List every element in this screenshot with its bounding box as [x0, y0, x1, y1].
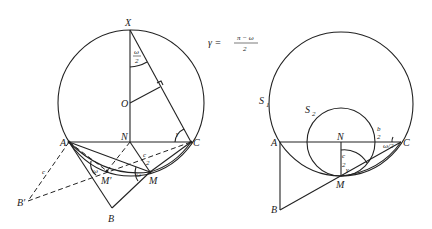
label-N: N: [120, 131, 129, 142]
label-omega-left: ω: [93, 167, 98, 175]
left-figure: X ω 2 O N A C γ c 2 ω ω M′ M c B′ B: [17, 17, 204, 224]
line-NM: [130, 142, 150, 172]
dashed-NM-prime: [107, 142, 130, 171]
label-c-half: c: [342, 152, 346, 160]
label-B: B: [271, 204, 277, 215]
svg-text:1: 1: [266, 101, 270, 109]
label-gamma: γ: [346, 166, 349, 174]
geometry-diagram: X ω 2 O N A C γ c 2 ω ω M′ M c B′ B γ = …: [0, 0, 432, 229]
label-S1: S: [259, 95, 264, 106]
formula: γ = π − ω 2: [208, 34, 258, 53]
line-XC: [130, 30, 191, 142]
label-O: O: [121, 98, 128, 109]
line-CM: [150, 142, 191, 172]
svg-text:2: 2: [312, 110, 316, 118]
label-omega-half: ω/2: [383, 142, 394, 150]
right-figure: S 1 S 2 N A C b 2 ω/2 c 2 γ M B: [259, 32, 413, 215]
line-BM: [112, 172, 150, 208]
formula-lhs: γ =: [208, 37, 221, 48]
label-omega-right: ω: [136, 171, 141, 179]
label-c-half-den: 2: [146, 159, 150, 167]
label-N: N: [336, 131, 345, 142]
label-B: B: [108, 213, 114, 224]
label-M: M: [148, 175, 158, 186]
label-omega-top-den: 2: [135, 57, 139, 65]
label-A: A: [59, 137, 67, 148]
label-C: C: [193, 137, 200, 148]
label-C: C: [403, 137, 410, 148]
label-gamma: γ: [176, 130, 179, 138]
label-X: X: [124, 17, 132, 28]
dashed-AB-prime: [28, 142, 69, 201]
dashed-B-prime-C: [28, 142, 191, 201]
label-M: M: [335, 179, 345, 190]
angle-arc-X: [130, 62, 147, 67]
label-b-half-den: 2: [377, 133, 381, 141]
label-c-side: c: [42, 168, 46, 176]
label-c-half: c: [143, 151, 147, 159]
formula-denominator: 2: [243, 45, 247, 53]
formula-numerator: π − ω: [237, 34, 254, 42]
label-B-prime: B′: [17, 197, 26, 208]
label-A: A: [270, 137, 278, 148]
arc-AMC: [69, 142, 191, 173]
label-b-half: b: [377, 125, 381, 133]
label-omega-top: ω: [134, 48, 139, 56]
line-O-perp: [130, 87, 160, 103]
label-M-prime: M′: [100, 175, 112, 186]
label-S2: S: [305, 104, 310, 115]
dashed-AM-prime: [69, 142, 107, 171]
